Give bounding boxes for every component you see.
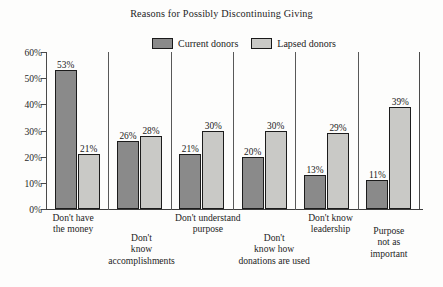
category-label-line: Don't have [30,212,116,223]
group-separator-5 [358,52,359,210]
bar-lapsed-5: 39% [389,107,411,209]
group-separator-1 [108,52,109,210]
chart-title: Reasons for Possibly Discontinuing Givin… [0,8,443,19]
category-label-line: Purpose [346,225,432,236]
bar-value-label: 29% [329,123,346,133]
bar-lapsed-0: 21% [78,154,100,209]
category-label-5: Purposenot asimportant [346,225,432,259]
legend-swatch-current-donors [152,38,173,49]
chart-figure: Reasons for Possibly Discontinuing Givin… [0,0,443,287]
group-separator-3 [233,52,234,210]
category-label-line: not as [346,236,432,247]
y-tick-label: 40% [24,99,42,110]
category-label-1: Don'tknowaccomplishments [98,232,184,266]
category-label-line: know [98,243,184,254]
legend-swatch-lapsed-donors [251,38,272,49]
legend-entry-lapsed-donors: Lapsed donors [251,38,336,49]
y-tick-label: 10% [24,177,42,188]
group-separator-2 [171,52,172,210]
bar-value-label: 26% [119,131,136,141]
y-tick-label: 60% [24,47,42,58]
category-label-3: Don'tknow howdonations are used [231,232,317,266]
bar-current-1: 26% [117,141,139,209]
bar-value-label: 39% [392,97,409,107]
category-label-line: Don't understand [165,212,251,223]
right-axis-line [419,52,420,210]
legend-label-lapsed-donors: Lapsed donors [277,38,336,49]
y-tick-label: 20% [24,151,42,162]
bar-lapsed-2: 30% [202,131,224,210]
y-tick-label: 30% [24,125,42,136]
bar-value-label: 28% [142,126,159,136]
chart-legend: Current donors Lapsed donors [152,38,336,49]
bar-value-label: 13% [306,165,323,175]
bar-value-label: 20% [244,147,261,157]
bar-current-0: 53% [55,70,77,209]
bar-value-label: 53% [57,60,74,70]
category-label-line: important [346,248,432,259]
bar-value-label: 21% [182,144,199,154]
y-tick-label: 50% [24,73,42,84]
bar-current-3: 20% [242,157,264,209]
plot-area: 60%50%40%30%20%10%0% 53%21%26%28%21%30%2… [46,52,420,210]
bar-lapsed-4: 29% [327,133,349,209]
bar-current-4: 13% [304,175,326,209]
bar-current-5: 11% [366,180,388,209]
group-separator-4 [295,52,296,210]
category-label-line: know how [231,243,317,254]
bar-value-label: 30% [205,121,222,131]
bar-value-label: 21% [80,144,97,154]
category-label-line: Don't know [287,212,373,223]
legend-entry-current-donors: Current donors [152,38,238,49]
bar-value-label: 11% [369,170,386,180]
legend-label-current-donors: Current donors [178,38,238,49]
bar-value-label: 30% [267,121,284,131]
bar-current-2: 21% [179,154,201,209]
category-label-line: donations are used [231,255,317,266]
bar-lapsed-1: 28% [140,136,162,209]
bar-lapsed-3: 30% [265,131,287,210]
y-axis-line [46,52,47,210]
category-label-line: accomplishments [98,255,184,266]
x-axis-category-labels: Don't havethe moneyDon'tknowaccomplishme… [46,212,443,287]
